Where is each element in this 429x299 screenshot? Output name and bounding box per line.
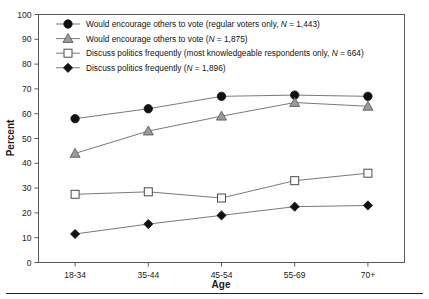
- x-tick-label: 18-34: [64, 270, 86, 280]
- y-tick-label: 70: [22, 84, 32, 94]
- y-tick-label: 80: [22, 59, 32, 69]
- data-point: [217, 92, 225, 100]
- legend-item: Discuss politics frequently (most knowle…: [56, 48, 364, 58]
- y-tick-label: 50: [22, 134, 32, 144]
- y-tick-label: 30: [22, 183, 32, 193]
- data-point: [218, 194, 226, 202]
- x-axis-title: Age: [212, 279, 231, 290]
- y-axis-title: Percent: [5, 119, 16, 156]
- data-point: [364, 92, 372, 100]
- legend-label: Discuss politics frequently (N = 1,896): [86, 63, 226, 73]
- data-point: [291, 177, 299, 185]
- x-tick-label: 45-54: [211, 270, 233, 280]
- y-tick-label: 40: [22, 158, 32, 168]
- y-tick-label: 90: [22, 34, 32, 44]
- legend-marker-open-square: [64, 49, 72, 57]
- legend-marker-filled-circle: [64, 20, 72, 28]
- chart-figure: 0102030405060708090100 18-3435-4445-5455…: [0, 0, 429, 299]
- y-tick-label: 10: [22, 233, 32, 243]
- legend-label: Would encourage others to vote (N = 1,87…: [86, 34, 248, 44]
- x-tick-label: 35-44: [137, 270, 159, 280]
- data-point: [364, 169, 372, 177]
- chart-background: [0, 0, 429, 299]
- x-tick-label: 70+: [361, 270, 375, 280]
- legend-item: Would encourage others to vote (regular …: [56, 19, 320, 29]
- y-tick-label: 20: [22, 208, 32, 218]
- legend-label: Discuss politics frequently (most knowle…: [86, 48, 364, 58]
- y-tick-label: 100: [17, 10, 31, 20]
- legend-label: Would encourage others to vote (regular …: [86, 19, 320, 29]
- data-point: [71, 190, 79, 198]
- data-point: [144, 105, 152, 113]
- y-tick-label: 60: [22, 109, 32, 119]
- line-chart: 0102030405060708090100 18-3435-4445-5455…: [0, 0, 429, 299]
- x-tick-label: 55-69: [284, 270, 306, 280]
- data-point: [144, 188, 152, 196]
- data-point: [71, 114, 79, 122]
- y-tick-label: 0: [27, 258, 32, 268]
